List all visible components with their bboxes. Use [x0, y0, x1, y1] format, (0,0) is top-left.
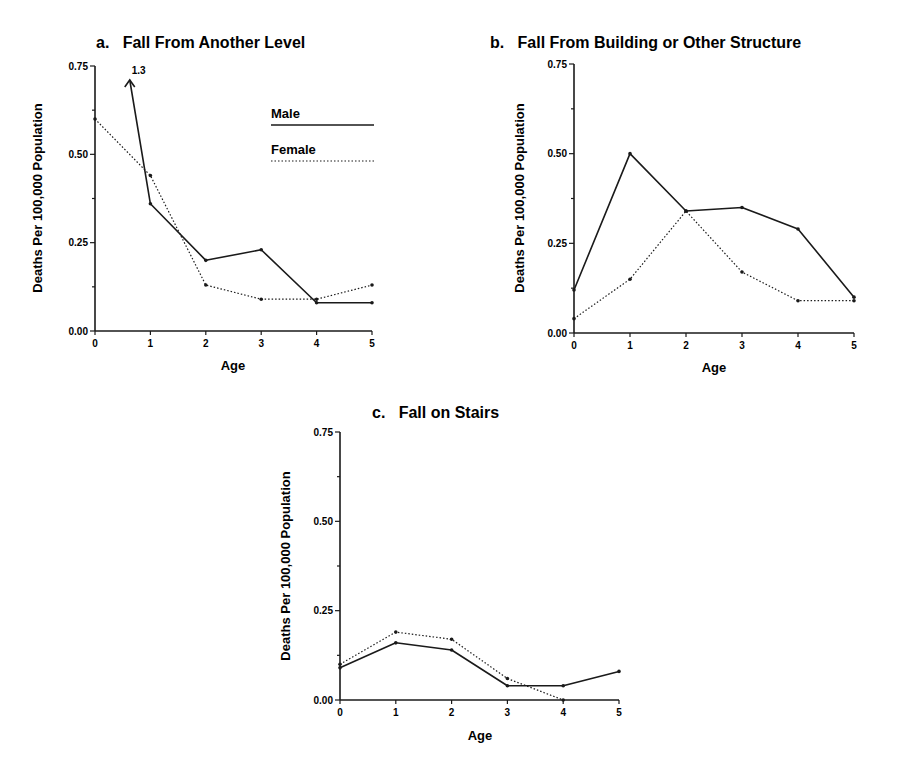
data-point-female — [149, 174, 153, 178]
y-tick-label: 0.25 — [548, 238, 568, 249]
x-tick-label: 1 — [627, 340, 633, 351]
x-tick-label: 2 — [203, 338, 209, 349]
data-point-female — [628, 277, 632, 281]
panel-a-axes: 0.000.250.500.75012345 — [69, 61, 376, 350]
y-tick-label: 0.50 — [314, 516, 334, 527]
data-point-female — [561, 698, 565, 702]
data-point-female — [450, 637, 454, 641]
panel-c-x-axis-label: Age — [468, 728, 493, 743]
data-point-male — [149, 202, 153, 206]
x-tick-label: 4 — [314, 338, 320, 349]
x-tick-label: 2 — [449, 707, 455, 718]
x-tick-label: 4 — [795, 340, 801, 351]
y-tick-label: 0.25 — [314, 605, 334, 616]
data-point-female — [572, 317, 576, 321]
data-point-female — [740, 270, 744, 274]
x-tick-label: 1 — [148, 338, 154, 349]
data-point-female — [370, 283, 374, 287]
data-point-female — [259, 297, 263, 301]
x-tick-label: 5 — [369, 338, 375, 349]
series-line-female — [574, 211, 854, 319]
legend: Male Female — [271, 106, 374, 161]
data-point-male — [450, 648, 454, 652]
data-point-male — [338, 666, 342, 670]
data-point-female — [204, 283, 208, 287]
series-line-female — [340, 632, 563, 700]
series-line-male — [130, 80, 372, 303]
x-tick-label: 3 — [505, 707, 511, 718]
data-point-female — [338, 662, 342, 666]
y-tick-label: 0.25 — [69, 237, 89, 248]
y-tick-label: 0.00 — [314, 695, 334, 706]
panel-a-x-axis-label: Age — [221, 358, 246, 373]
figure: a. Fall From Another Level 0.000.250.500… — [0, 0, 913, 776]
y-tick-label: 0.50 — [69, 149, 89, 160]
data-point-female — [796, 299, 800, 303]
data-point-female — [315, 297, 319, 301]
panel-c-fall-on-stairs: c. Fall on Stairs 0.000.250.500.75012345… — [278, 404, 622, 743]
x-tick-label: 2 — [683, 340, 689, 351]
off-scale-annotation: 1.3 — [132, 65, 146, 76]
panel-b-plot — [572, 152, 856, 321]
legend-male-label: Male — [271, 106, 300, 121]
panel-a-fall-from-another-level: a. Fall From Another Level 0.000.250.500… — [30, 34, 375, 373]
data-point-female — [394, 630, 398, 634]
x-tick-label: 5 — [851, 340, 857, 351]
x-tick-label: 5 — [616, 707, 622, 718]
panel-b-fall-from-building: b. Fall From Building or Other Structure… — [490, 34, 857, 375]
panel-b-title: b. Fall From Building or Other Structure — [490, 34, 801, 51]
panel-a-title: a. Fall From Another Level — [96, 34, 305, 51]
y-tick-label: 0.75 — [548, 59, 568, 70]
data-point-male — [740, 206, 744, 210]
data-point-male — [628, 152, 632, 156]
y-tick-label: 0.75 — [69, 61, 89, 72]
data-point-male — [506, 684, 510, 688]
x-tick-label: 1 — [393, 707, 399, 718]
x-tick-label: 3 — [258, 338, 264, 349]
panel-b-x-axis-label: Age — [702, 360, 727, 375]
data-point-male — [796, 227, 800, 231]
y-tick-label: 0.00 — [548, 328, 568, 339]
series-line-female — [95, 119, 372, 299]
x-tick-label: 0 — [337, 707, 343, 718]
y-tick-label: 0.50 — [548, 148, 568, 159]
panel-b-axes: 0.000.250.500.75012345 — [548, 59, 858, 352]
data-point-male — [852, 295, 856, 299]
data-point-male — [617, 670, 621, 674]
data-point-male — [394, 641, 398, 645]
series-line-male — [574, 154, 854, 297]
panel-a-plot: 1.3 — [93, 65, 374, 305]
legend-female-label: Female — [271, 142, 316, 157]
x-tick-label: 4 — [560, 707, 566, 718]
panel-c-title: c. Fall on Stairs — [372, 404, 499, 421]
x-tick-label: 0 — [92, 338, 98, 349]
y-tick-label: 0.75 — [314, 427, 334, 438]
data-point-male — [572, 288, 576, 292]
panel-c-y-axis-label: Deaths Per 100,000 Population — [278, 471, 293, 660]
data-point-male — [561, 684, 565, 688]
panel-b-y-axis-label: Deaths Per 100,000 Population — [512, 103, 527, 292]
y-tick-label: 0.00 — [69, 326, 89, 337]
data-point-male — [370, 301, 374, 305]
panel-c-plot — [338, 630, 621, 701]
data-point-male — [315, 301, 319, 305]
x-tick-label: 3 — [739, 340, 745, 351]
panel-c-axes: 0.000.250.500.75012345 — [314, 427, 623, 719]
data-point-male — [259, 248, 263, 252]
data-point-female — [684, 209, 688, 213]
x-tick-label: 0 — [571, 340, 577, 351]
series-line-male — [340, 643, 619, 686]
data-point-male — [204, 259, 208, 263]
panel-a-y-axis-label: Deaths Per 100,000 Population — [30, 103, 45, 292]
data-point-female — [852, 299, 856, 303]
data-point-female — [93, 117, 97, 121]
data-point-female — [506, 677, 510, 681]
